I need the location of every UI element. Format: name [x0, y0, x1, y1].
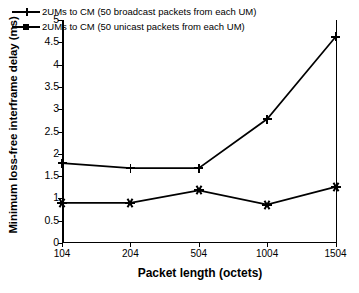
x-tick-mark: [267, 243, 268, 247]
legend-marker-plus-icon: [12, 6, 40, 18]
series-line-broadcast: [62, 37, 336, 168]
chart-figure: Minimum loss-free interframe delay (ms) …: [0, 0, 359, 293]
y-axis-title: Minimum loss-free interframe delay (ms): [4, 0, 22, 250]
x-tick-mark: [336, 243, 337, 247]
data-point-square: [125, 197, 136, 208]
legend-item-unicast: 2UMs to CM (50 unicast packets from each…: [12, 19, 262, 34]
x-axis-title: Packet length (octets): [62, 266, 338, 280]
y-tick-label: 4.5: [44, 35, 59, 47]
data-point-plus: [263, 115, 272, 124]
data-point-plus: [194, 164, 203, 173]
y-tick-label: 2: [53, 147, 59, 159]
data-point-square: [330, 181, 341, 192]
data-point-square: [262, 199, 273, 210]
legend-marker-square-icon: [12, 21, 40, 33]
y-tick-label: 0: [53, 236, 59, 248]
data-point-square: [57, 197, 68, 208]
plot-area: 00.511.522.533.544.55 10420450410041504: [62, 20, 337, 243]
x-tick-label: 504: [190, 248, 207, 259]
x-tick-mark: [62, 243, 63, 247]
data-point-plus: [58, 159, 67, 168]
series-lines: [62, 20, 337, 243]
data-point-plus: [126, 164, 135, 173]
data-point-square: [193, 185, 204, 196]
x-tick-mark: [130, 243, 131, 247]
x-tick-label: 204: [122, 248, 139, 259]
y-tick-label: 1.5: [44, 169, 59, 181]
y-tick-label: 4: [53, 58, 59, 70]
y-tick-label: 3.5: [44, 80, 59, 92]
y-tick-label: 0.5: [44, 214, 59, 226]
x-tick-label: 1004: [256, 248, 278, 259]
x-tick-label: 104: [54, 248, 71, 259]
x-tick-mark: [199, 243, 200, 247]
y-tick-label: 2.5: [44, 125, 59, 137]
legend-label-broadcast: 2UMs to CM (50 broadcast packets from ea…: [42, 6, 256, 18]
x-tick-label: 1504: [324, 248, 346, 259]
data-point-plus: [331, 32, 340, 41]
legend-label-unicast: 2UMs to CM (50 unicast packets from each…: [42, 21, 245, 33]
y-tick-label: 3: [53, 102, 59, 114]
legend-item-broadcast: 2UMs to CM (50 broadcast packets from ea…: [12, 4, 262, 19]
chart-legend: 2UMs to CM (50 broadcast packets from ea…: [12, 4, 262, 34]
